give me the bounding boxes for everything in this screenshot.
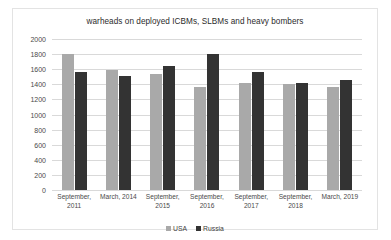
bar-group — [185, 39, 229, 190]
y-axis-tick-label: 400 — [34, 156, 46, 163]
chart-container: warheads on deployed ICBMs, SLBMs and he… — [12, 8, 378, 230]
x-axis-tick-label: September,2015 — [141, 192, 185, 210]
legend-label: Russia — [203, 225, 224, 232]
x-axis-tick-line: September, — [185, 192, 229, 201]
x-axis: September,2011March, 2014September,2015S… — [52, 192, 362, 210]
x-axis-tick-line: 2016 — [185, 201, 229, 210]
x-axis-tick-line: March, 2019 — [318, 192, 362, 201]
y-axis-tick-label: 1800 — [30, 51, 46, 58]
y-axis-tick-label: 800 — [34, 126, 46, 133]
bar-group — [318, 39, 362, 190]
x-axis-tick-line: 2017 — [229, 201, 273, 210]
bar-russia[interactable] — [207, 54, 219, 190]
x-axis-tick-label: September,2017 — [229, 192, 273, 210]
x-axis-tick-line: March, 2014 — [96, 192, 140, 201]
chart-title: warheads on deployed ICBMs, SLBMs and he… — [13, 17, 377, 26]
bar-russia[interactable] — [252, 72, 264, 190]
bar-usa[interactable] — [283, 84, 295, 190]
bars-layer — [52, 39, 362, 190]
legend-swatch-icon — [196, 226, 201, 231]
x-axis-tick-line: 2015 — [141, 201, 185, 210]
y-axis-tick-label: 1200 — [30, 96, 46, 103]
y-axis-tick-label: 200 — [34, 171, 46, 178]
legend-entry-usa[interactable]: USA — [166, 225, 187, 232]
x-axis-tick-label: September,2018 — [273, 192, 317, 210]
y-axis-tick-label: 600 — [34, 141, 46, 148]
x-axis-tick-line: September, — [229, 192, 273, 201]
bar-group — [96, 39, 140, 190]
y-axis-tick-label: 0 — [42, 187, 46, 194]
bar-usa[interactable] — [327, 87, 339, 190]
plot-area — [52, 39, 362, 190]
x-axis-tick-label: March, 2019 — [318, 192, 362, 210]
y-axis-tick-label: 1400 — [30, 81, 46, 88]
x-axis-tick-line: September, — [273, 192, 317, 201]
bar-usa[interactable] — [62, 54, 74, 190]
chart-legend: USARussia — [13, 225, 377, 232]
x-axis-tick-label: September,2016 — [185, 192, 229, 210]
bar-usa[interactable] — [106, 70, 118, 190]
x-axis-tick-label: September,2011 — [52, 192, 96, 210]
gridline — [52, 190, 362, 191]
bar-russia[interactable] — [75, 72, 87, 190]
bar-group — [273, 39, 317, 190]
x-axis-tick-line: September, — [52, 192, 96, 201]
x-axis-tick-line: 2018 — [273, 201, 317, 210]
bar-russia[interactable] — [296, 83, 308, 190]
y-axis-tick-label: 2000 — [30, 36, 46, 43]
x-axis-tick-line: September, — [141, 192, 185, 201]
x-axis-tick-line: 2011 — [52, 201, 96, 210]
bar-russia[interactable] — [119, 76, 131, 190]
bar-russia[interactable] — [163, 66, 175, 190]
y-axis-tick-label: 1000 — [30, 111, 46, 118]
legend-label: USA — [173, 225, 187, 232]
bar-usa[interactable] — [239, 83, 251, 190]
bar-russia[interactable] — [340, 80, 352, 190]
legend-swatch-icon — [166, 226, 171, 231]
bar-group — [52, 39, 96, 190]
legend-entry-russia[interactable]: Russia — [196, 225, 224, 232]
bar-usa[interactable] — [194, 87, 206, 190]
bar-group — [141, 39, 185, 190]
y-axis: 2000180016001400120010008006004002000 — [13, 39, 50, 190]
bar-group — [229, 39, 273, 190]
y-axis-tick-label: 1600 — [30, 66, 46, 73]
bar-usa[interactable] — [150, 74, 162, 190]
x-axis-tick-label: March, 2014 — [96, 192, 140, 210]
